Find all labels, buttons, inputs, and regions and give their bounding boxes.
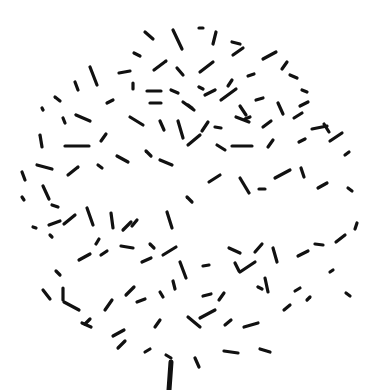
seed-dash	[315, 244, 323, 245]
seed-dash	[215, 127, 221, 128]
seed-dash	[203, 294, 211, 296]
seed-dash	[199, 87, 203, 89]
seed-dash	[248, 74, 254, 76]
seed-dash	[121, 246, 133, 248]
seed-dash	[258, 287, 262, 289]
seed-dash	[302, 90, 307, 92]
seed-dash	[111, 213, 113, 228]
seed-dash	[307, 297, 310, 300]
seed-dash	[52, 205, 58, 207]
seed-dash	[232, 42, 240, 44]
seed-dash	[22, 197, 24, 200]
stem	[169, 362, 171, 390]
seed-dash	[119, 71, 130, 73]
dandelion-illustration	[0, 0, 392, 390]
seed-dash	[42, 108, 43, 110]
seed-dash	[40, 135, 42, 147]
seed-dash	[256, 98, 263, 100]
seed-dash	[63, 118, 65, 123]
seed-dash	[50, 235, 52, 237]
seed-dash	[203, 265, 209, 266]
seed-dash	[33, 227, 36, 228]
seed-dash	[224, 351, 238, 353]
seed-dash	[173, 281, 175, 289]
seed-dash	[355, 223, 357, 229]
seed-dash	[330, 270, 333, 272]
seed-dash	[245, 117, 250, 119]
background	[0, 0, 392, 390]
